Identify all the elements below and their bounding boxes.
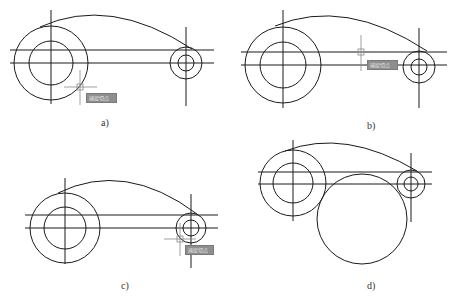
panel-label-b: b) xyxy=(367,120,375,131)
figure-caption-clipped xyxy=(150,296,310,303)
panel-a-drawing xyxy=(10,10,214,106)
panel-label-c: c) xyxy=(121,280,129,291)
panel-d-drawing xyxy=(258,140,432,264)
panel-b-drawing xyxy=(241,10,447,108)
snap-tooltip-c: 捕捉切点 xyxy=(185,245,214,255)
panel-label-a: a) xyxy=(101,117,109,128)
cad-tangent-arc-figure xyxy=(0,0,453,303)
snap-tooltip-a: 捕捉切点 xyxy=(86,93,117,103)
tangent-arc xyxy=(275,16,427,51)
tangent-arc xyxy=(58,180,197,214)
panel-label-d: d) xyxy=(367,280,375,291)
tangent-circle xyxy=(317,174,407,264)
snap-tooltip-b: 捕捉切点 xyxy=(367,60,398,70)
